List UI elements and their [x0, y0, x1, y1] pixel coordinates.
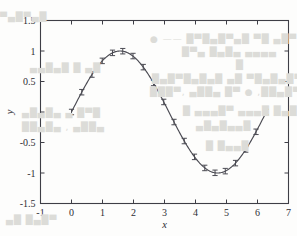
axes-frame [41, 21, 289, 204]
x-ticklabel-6: 5 [224, 207, 229, 218]
x-ticklabel-3: 2 [131, 207, 136, 218]
x-axis-label: x [161, 219, 167, 230]
data-line-0 [72, 51, 267, 173]
x-ticklabel-2: 1 [100, 207, 105, 218]
x-ticklabel-1: 0 [69, 207, 74, 218]
data-series-layer [69, 48, 269, 175]
x-ticklabel-8: 7 [286, 207, 291, 218]
y-ticklabel-3: 0 [31, 107, 36, 118]
y-ticklabel-6: 1.5 [23, 15, 36, 26]
x-ticklabel-4: 3 [162, 207, 167, 218]
y-ticklabel-2: -0.5 [20, 137, 36, 148]
sine-errorbar-plot: -101234567 -1.5-1-0.500.511.5 x y [0, 0, 297, 236]
x-axis-ticks [41, 21, 289, 204]
y-ticklabel-4: 0.5 [23, 76, 36, 87]
y-axis-label: y [4, 109, 15, 115]
figure-container: ● —— █▀█▄█▀▄█ ▀█ ▄█▀ █▄█▀▄█▀█▀▄ █▄█▄ ▄▄▄… [0, 0, 297, 236]
x-ticklabel-7: 6 [255, 207, 260, 218]
x-ticklabel-5: 4 [193, 207, 198, 218]
y-ticklabel-1: -1 [27, 168, 35, 179]
y-ticklabel-0: -1.5 [20, 198, 36, 209]
y-ticklabel-5: 1 [31, 46, 36, 57]
y-axis-tick-labels: -1.5-1-0.500.511.5 [20, 15, 36, 209]
x-axis-tick-labels: -101234567 [36, 207, 291, 218]
y-axis-ticks [41, 21, 289, 204]
x-ticklabel-0: -1 [36, 207, 44, 218]
